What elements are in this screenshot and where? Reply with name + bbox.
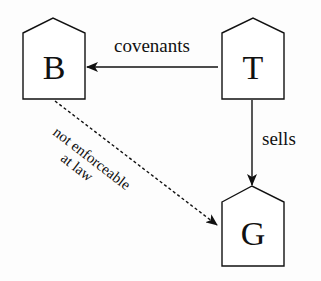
edge-covenants: covenants xyxy=(87,35,218,67)
diagram-canvas: B T G covenants sells not enforceable xyxy=(0,0,321,281)
diagram-svg: B T G covenants sells not enforceable xyxy=(0,0,321,281)
node-label-b: B xyxy=(43,49,66,86)
edge-label-sells: sells xyxy=(262,128,296,149)
node-g: G xyxy=(222,186,284,266)
edge-label-covenants: covenants xyxy=(114,35,190,56)
edge-label-not-enforceable: not enforceable at law xyxy=(40,124,133,206)
edge-sells: sells xyxy=(252,100,296,185)
node-label-t: T xyxy=(243,49,264,86)
node-label-g: G xyxy=(241,215,266,252)
edge-not-enforceable: not enforceable at law xyxy=(40,101,217,225)
node-b: B xyxy=(23,18,85,99)
node-t: T xyxy=(222,18,284,99)
